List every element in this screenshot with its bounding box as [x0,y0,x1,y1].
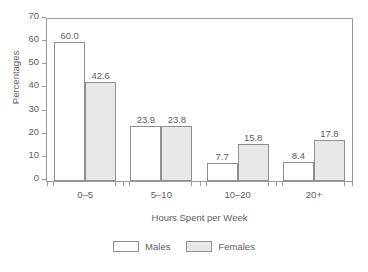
x-axis-tick-mark [268,182,269,186]
y-axis-tick-label: 60 [28,34,39,44]
legend: MalesFemales [0,241,368,252]
legend-swatch-females [186,241,212,252]
bar-females-0[interactable]: 42.6 [85,82,116,181]
x-axis-tick-mark [352,182,353,186]
bar-females-1[interactable]: 23.8 [161,126,192,181]
bar-males-0[interactable]: 60.0 [54,42,85,181]
y-axis-tick-label: 10 [28,150,39,160]
bar-males-1[interactable]: 23.9 [130,126,161,181]
x-axis-tick-mark [115,182,116,186]
x-axis-tick-mark [47,182,48,186]
bar-females-2[interactable]: 15.8 [238,144,269,181]
y-axis-tick-label: 0 [34,173,39,183]
bar-females-3[interactable]: 17.8 [314,140,345,181]
bar-value-label: 8.4 [292,150,305,161]
x-axis-tick-mark [282,182,283,186]
bar-males-2[interactable]: 7.7 [207,163,238,181]
y-axis-tick-label: 20 [28,127,39,137]
bar-males-3[interactable]: 8.4 [283,162,314,181]
x-axis-tick-mark [191,182,192,186]
legend-swatch-males [113,241,139,252]
bar-group: 23.923.8 [130,19,192,181]
x-axis-category-label: 20+ [306,189,322,201]
x-axis-tick-mark [53,182,54,186]
y-axis-tick-label: 50 [28,57,39,67]
legend-entry-females[interactable]: Females [186,241,254,252]
bars-layer: 60.042.623.923.87.715.88.417.8 [47,19,352,181]
bar-value-label: 60.0 [60,30,79,41]
x-axis-tick-mark [123,182,124,186]
y-axis-tick-label: 30 [28,104,39,114]
x-axis-category-labels: 0–55–1010–2020+ [46,189,353,203]
x-axis-category-label: 10–20 [224,189,250,201]
y-axis-tick-label: 70 [28,11,39,21]
bar-group: 8.417.8 [283,19,345,181]
x-axis-category-label: 0–5 [77,189,93,201]
bar-group: 7.715.8 [207,19,269,181]
bar-group: 60.042.6 [54,19,116,181]
x-axis-tick-mark [129,182,130,186]
bar-chart: Percentages 010203040506070 60.042.623.9… [0,0,368,272]
x-axis-ticks [46,182,353,187]
legend-entry-males[interactable]: Males [113,241,170,252]
bar-value-label: 42.6 [91,70,110,81]
x-axis-title: Hours Spent per Week [46,212,353,223]
y-axis-tick-label: 40 [28,80,39,90]
bar-value-label: 23.8 [168,114,187,125]
bar-value-label: 7.7 [216,151,229,162]
x-axis-tick-mark [206,182,207,186]
x-axis-tick-mark [200,182,201,186]
x-axis-category-label: 5–10 [151,189,172,201]
x-axis-tick-mark [276,182,277,186]
legend-label: Females [218,241,254,252]
bar-value-label: 23.9 [137,114,156,125]
bar-value-label: 17.8 [320,128,339,139]
legend-label: Males [145,241,170,252]
y-axis: 010203040506070 [0,18,46,182]
bar-value-label: 15.8 [244,132,263,143]
x-axis-tick-mark [344,182,345,186]
